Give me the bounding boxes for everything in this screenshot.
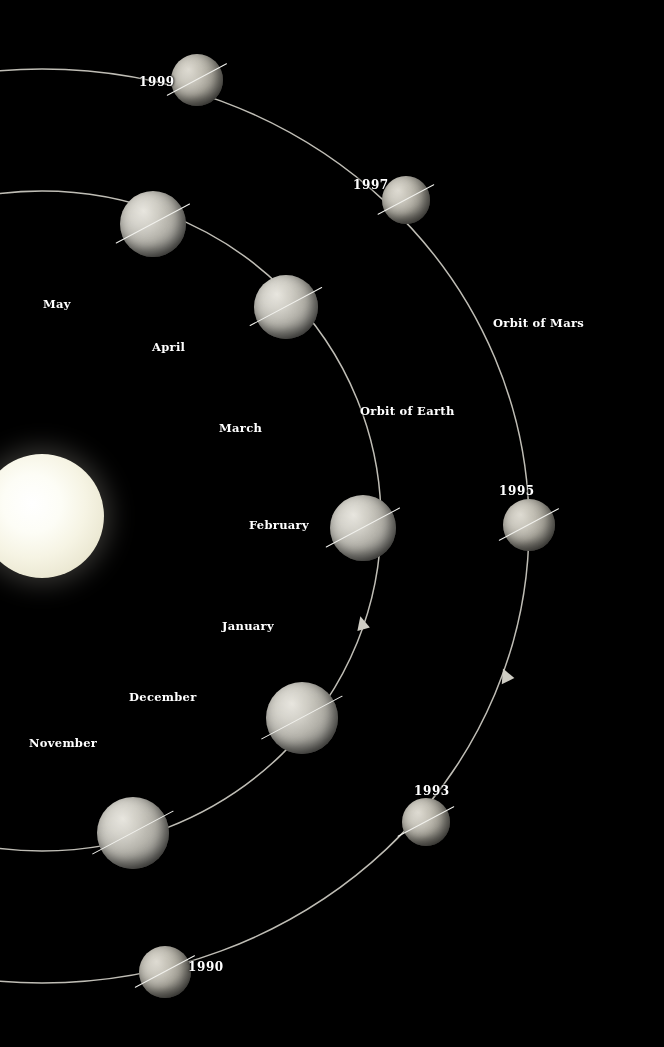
year-label-1999: 1999 — [139, 75, 175, 89]
year-label-1990: 1990 — [188, 960, 224, 974]
month-label-march: March — [219, 421, 262, 435]
month-label-january: January — [222, 619, 274, 633]
orbit-diagram: Orbit of Mars Orbit of Earth May April M… — [0, 0, 664, 1047]
year-label-1995: 1995 — [499, 484, 535, 498]
month-label-november: November — [29, 736, 97, 750]
year-label-1997: 1997 — [353, 178, 389, 192]
earth-direction-arrow — [354, 615, 370, 631]
month-label-may: May — [43, 297, 71, 311]
year-label-1993: 1993 — [414, 784, 450, 798]
month-label-april: April — [152, 340, 185, 354]
orbit-of-earth-label: Orbit of Earth — [360, 404, 455, 418]
month-label-december: December — [129, 690, 197, 704]
month-label-february: February — [249, 518, 309, 532]
orbit-of-mars-label: Orbit of Mars — [493, 316, 584, 330]
